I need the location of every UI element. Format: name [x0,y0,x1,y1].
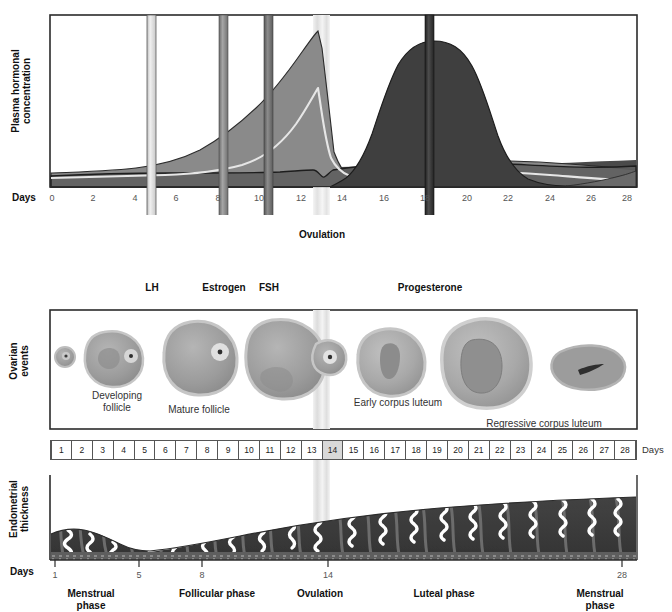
day-cell-7[interactable]: 7 [176,441,197,459]
day-cell-18[interactable]: 18 [406,441,427,459]
day-cell-17[interactable]: 17 [385,441,406,459]
day-cell-22[interactable]: 22 [490,441,511,459]
day-cell-13[interactable]: 13 [302,441,323,459]
phase-menstrual-late-line1: Menstrual [576,588,623,599]
day-cell-6[interactable]: 6 [155,441,176,459]
endometrial-ticks [55,560,622,567]
day-cell-3[interactable]: 3 [93,441,114,459]
estrogen-arrow-label: Estrogen [192,282,256,293]
hormone-plot-frame [50,15,637,187]
day-cell-27[interactable]: 27 [594,441,615,459]
follicle-stage-3-icon [164,321,237,395]
mature-follicle-label: Mature follicle [153,404,245,416]
regressive-corpus-luteum-label: Regressive corpus luteum [476,418,612,430]
hormone-days-word: Days [12,192,36,203]
day-cell-1[interactable]: 1 [51,441,72,459]
day-cell-25[interactable]: 25 [552,441,573,459]
hormone-tick-20: 20 [458,193,476,203]
phase-follicular-label: Follicular phase [167,588,267,600]
mature-corpus-luteum-icon [442,319,531,408]
day-cell-11[interactable]: 11 [260,441,281,459]
day-cell-2[interactable]: 2 [72,441,93,459]
day-cell-5[interactable]: 5 [135,441,156,459]
fsh-arrow-label: FSH [249,282,289,293]
phase-menstrual-late-label: Menstrual phase [558,588,642,612]
day-cell-14[interactable]: 14 [323,441,344,459]
day-cell-19[interactable]: 19 [427,441,448,459]
hormone-tick-10: 10 [250,193,268,203]
hormone-tick-22: 22 [499,193,517,203]
ovarian-events-panel: Ovarian events [0,300,672,440]
endometrial-days-word: Days [10,566,34,577]
developing-follicle-label-line1: Developing [92,390,142,401]
hormone-tick-18: 18 [416,193,434,203]
hormone-tick-28: 28 [618,193,636,203]
day-cell-28[interactable]: 28 [615,441,636,459]
day-cell-4[interactable]: 4 [114,441,135,459]
day-cell-21[interactable]: 21 [469,441,490,459]
hormone-panel: Plasma hormonal concentration [0,0,672,215]
phase-menstrual-early-line1: Menstrual [67,588,114,599]
hormone-tick-8: 8 [209,193,227,203]
ovulation-band-lower [313,187,330,215]
day-cell-10[interactable]: 10 [239,441,260,459]
day-strip-trailing-label: Days [642,444,664,455]
hormone-tick-0: 0 [43,193,61,203]
follicle-stage-2-icon [85,331,143,387]
hormone-tick-16: 16 [375,193,393,203]
early-corpus-luteum-label: Early corpus luteum [343,397,453,409]
hormone-chart-svg [0,0,672,215]
day-cell-16[interactable]: 16 [364,441,385,459]
day-cell-9[interactable]: 9 [218,441,239,459]
developing-follicle-label: Developing follicle [75,390,159,414]
day-cell-23[interactable]: 23 [511,441,532,459]
phase-menstrual-early-line2: phase [77,600,106,611]
phase-luteal-label: Luteal phase [401,588,487,600]
day-cell-20[interactable]: 20 [448,441,469,459]
lh-arrow-label: LH [131,282,173,293]
endometrial-tick-14: 14 [319,570,337,580]
hormone-tick-4: 4 [126,193,144,203]
hormone-tick-6: 6 [167,193,185,203]
hormone-tick-12: 12 [292,193,310,203]
day-cell-8[interactable]: 8 [197,441,218,459]
phase-menstrual-late-line2: phase [586,600,615,611]
day-cell-15[interactable]: 15 [344,441,365,459]
day-cell-12[interactable]: 12 [281,441,302,459]
endometrial-tick-28: 28 [613,570,631,580]
day-cell-26[interactable]: 26 [573,441,594,459]
hormone-tick-2: 2 [84,193,102,203]
developing-follicle-label-line2: follicle [103,402,131,413]
progesterone-arrow-label: Progesterone [389,282,471,293]
regressive-corpus-luteum-icon [551,345,625,389]
phase-ovulation-label: Ovulation [287,588,353,600]
early-corpus-luteum-icon [358,329,425,396]
follicle-stage-1-icon [55,347,75,367]
hormone-tick-26: 26 [582,193,600,203]
day-cell-24[interactable]: 24 [532,441,553,459]
endometrium-body [50,490,638,566]
hormone-tick-24: 24 [541,193,559,203]
hormone-tick-14: 14 [333,193,351,203]
day-number-strip: 1234567891011121314151617181920212223242… [50,440,637,460]
endometrial-panel: Endometrial thickness [0,460,672,610]
phase-menstrual-early-label: Menstrual phase [49,588,133,612]
endometrial-tick-5: 5 [130,570,148,580]
ovulation-label-hormone: Ovulation [289,229,355,240]
endometrial-tick-8: 8 [193,570,211,580]
endometrial-tick-1: 1 [46,570,64,580]
